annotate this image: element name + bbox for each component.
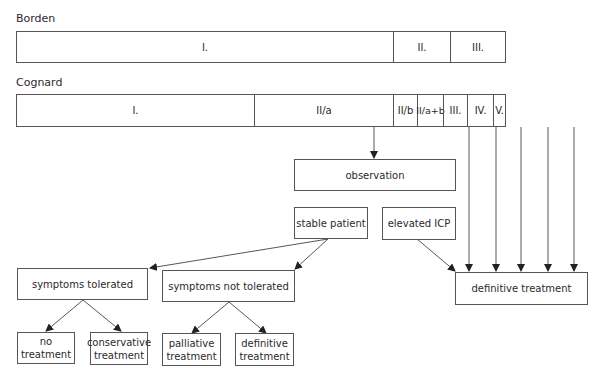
palliative-treatment-box: palliative treatment — [162, 333, 221, 366]
definitive-treatment-main-box: definitive treatment — [455, 272, 588, 305]
no-treatment-box: no treatment — [17, 332, 75, 364]
symptoms-tolerated-box: symptoms tolerated — [17, 268, 148, 300]
stable-patient-box: stable patient — [294, 207, 368, 239]
symptoms-not-tolerated-box: symptoms not tolerated — [162, 270, 295, 302]
observation-box: observation — [294, 159, 456, 191]
definitive-treatment-box: definitive treatment — [235, 333, 294, 366]
conservative-treatment-box: conservative treatment — [90, 332, 148, 365]
elevated-icp-box: elevated ICP — [382, 207, 456, 240]
